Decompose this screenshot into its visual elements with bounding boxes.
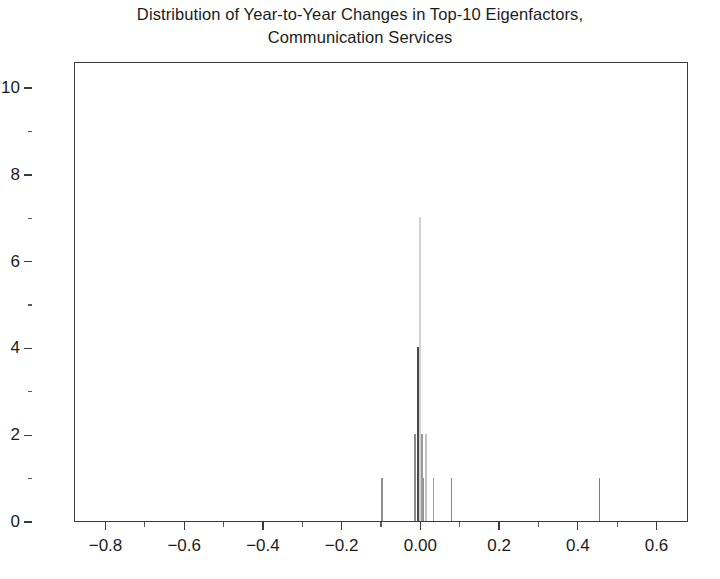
plot-area: [74, 62, 688, 522]
y-axis-tick: [24, 87, 32, 88]
y-axis-minor-tick: [28, 391, 33, 392]
y-axis-tick-label: 10: [1, 79, 20, 96]
histogram-figure: Distribution of Year-to-Year Changes in …: [0, 0, 720, 579]
y-axis-tick-label: 4: [11, 339, 20, 356]
x-axis-minor-tick: [380, 522, 381, 527]
bars-layer: [75, 63, 687, 521]
y-axis-minor-tick: [28, 131, 33, 132]
y-axis-tick-label: 8: [11, 166, 20, 183]
x-axis-tick: [184, 522, 185, 530]
histogram-bar: [599, 478, 600, 521]
y-axis-minor-tick: [28, 304, 33, 305]
x-axis-tick: [498, 522, 499, 530]
y-axis-tick: [24, 174, 32, 175]
histogram-bar: [423, 478, 425, 521]
x-axis-tick-label: −0.6: [167, 536, 201, 555]
x-axis-tick: [341, 522, 342, 530]
x-axis-minor-tick: [223, 522, 224, 527]
histogram-bar: [451, 478, 452, 521]
x-axis-tick: [262, 522, 263, 530]
chart-title: Distribution of Year-to-Year Changes in …: [0, 3, 720, 49]
x-axis-tick-label: −0.2: [325, 536, 359, 555]
y-axis-tick-label: 2: [11, 426, 20, 443]
x-axis-tick-label: 0.00: [404, 536, 437, 555]
x-axis-minor-tick: [459, 522, 460, 527]
y-axis-tick: [24, 348, 32, 349]
y-axis-tick-label: 0: [11, 513, 20, 530]
x-axis-tick: [656, 522, 657, 530]
histogram-bar: [425, 434, 426, 521]
x-axis-tick: [577, 522, 578, 530]
x-axis-minor-tick: [144, 522, 145, 527]
histogram-bar: [414, 434, 416, 521]
y-axis-tick-label: 6: [11, 253, 20, 270]
x-axis-minor-tick: [538, 522, 539, 527]
x-axis-tick: [105, 522, 106, 530]
histogram-bar: [433, 478, 434, 521]
y-axis-minor-tick: [28, 218, 33, 219]
y-axis-tick: [24, 261, 32, 262]
x-axis-tick-label: 0.2: [487, 536, 511, 555]
x-axis-minor-tick: [617, 522, 618, 527]
x-axis-tick: [420, 522, 421, 530]
y-axis-minor-tick: [28, 478, 33, 479]
y-axis-tick: [24, 435, 32, 436]
y-axis-tick: [24, 521, 32, 522]
x-axis-tick-label: 0.6: [645, 536, 669, 555]
x-axis-minor-tick: [302, 522, 303, 527]
histogram-bar: [381, 478, 382, 521]
x-axis-tick-label: 0.4: [566, 536, 590, 555]
x-axis-tick-label: −0.8: [89, 536, 123, 555]
x-axis-tick-label: −0.4: [246, 536, 280, 555]
